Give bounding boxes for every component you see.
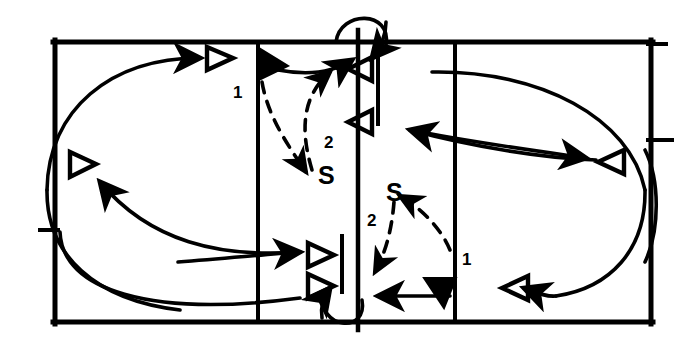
label-left-setter: S xyxy=(318,163,335,188)
label-left-number-2: 2 xyxy=(324,134,333,151)
path-right-setter-in xyxy=(375,202,394,272)
court-diagram-canvas xyxy=(0,0,692,362)
player-markers xyxy=(70,47,624,300)
label-right-number-1: 1 xyxy=(462,251,471,268)
path-left-return-arrow xyxy=(100,182,300,253)
attacker-left-net xyxy=(259,48,288,80)
player-left-net-lower xyxy=(308,274,334,298)
movement-paths-solid xyxy=(47,58,363,323)
path-left-sweep-bottom xyxy=(60,232,300,304)
label-right-number-2: 2 xyxy=(367,212,376,229)
path-left-setter-in xyxy=(305,72,330,170)
player-right-middle xyxy=(598,150,624,174)
path-right-sweep-bottom xyxy=(556,190,645,296)
path-right-setter-out xyxy=(400,196,450,250)
movement-paths-dashed-left xyxy=(262,72,330,172)
attacker-right-net xyxy=(424,278,456,308)
player-left-back-row xyxy=(70,152,96,177)
label-right-setter: S xyxy=(386,180,403,205)
volleyball-diagram: 1 2 S S 2 1 xyxy=(0,0,692,362)
player-left-front-row xyxy=(207,47,233,70)
path-right-sweep-top xyxy=(432,72,645,190)
path-right-cross-right-arrow xyxy=(410,130,586,158)
label-left-number-1: 1 xyxy=(233,84,242,101)
movement-paths-dashed-right xyxy=(375,196,450,272)
path-left-setter-out xyxy=(262,82,306,172)
player-left-net-upper xyxy=(308,243,334,267)
